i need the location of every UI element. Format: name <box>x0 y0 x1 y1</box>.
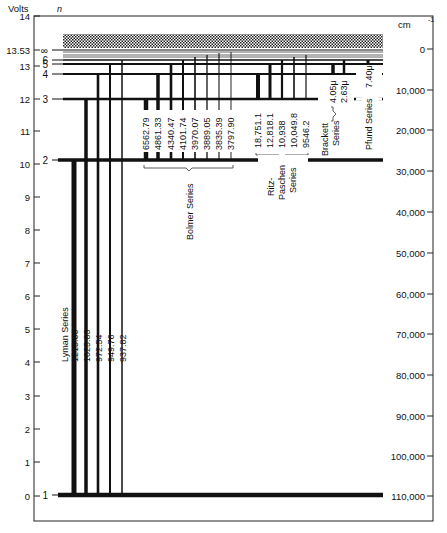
lyman-transitions <box>74 60 122 495</box>
left-axis-tick-label: 7 <box>25 258 30 269</box>
svg-text:4101.74: 4101.74 <box>178 117 188 150</box>
svg-text:Series: Series <box>288 167 298 193</box>
lyman-labels: Lyman Series 1215.66 1025.83 972.54 949.… <box>60 307 128 362</box>
right-axis-tick-label: 10,000 <box>396 85 425 96</box>
svg-text:2.63μ: 2.63μ <box>339 80 349 103</box>
right-axis-tick-label: 40,000 <box>396 207 425 218</box>
right-axis-tick-label: 60,000 <box>396 289 425 300</box>
svg-text:3970.07: 3970.07 <box>190 117 200 150</box>
left-axis-tick-label: 13 <box>19 61 30 72</box>
svg-text:3889.05: 3889.05 <box>202 117 212 150</box>
left-axis-tick-label: 5 <box>25 324 30 335</box>
ionization-continuum <box>63 34 383 48</box>
left-axis-tick-label: 1 <box>25 457 30 468</box>
right-axis-tick-label: 100,000 <box>391 451 425 462</box>
svg-text:Series: Series <box>331 120 341 146</box>
svg-text:6562.79: 6562.79 <box>141 117 151 150</box>
right-axis-tick-label: 70,000 <box>396 329 425 340</box>
svg-text:12,818.1: 12,818.1 <box>265 113 275 148</box>
svg-text:Ritz-: Ritz- <box>266 178 276 197</box>
brackett-labels: 4.05μ 2.63μ Brackett Series <box>318 76 354 158</box>
svg-text:972.54: 972.54 <box>94 334 104 362</box>
energy-level-n-label: 1 <box>42 490 48 501</box>
svg-text:3797.90: 3797.90 <box>226 117 236 150</box>
svg-text:Bolmer Series: Bolmer Series <box>185 183 195 240</box>
left-axis-tick-label: 0 <box>25 491 30 502</box>
svg-text:4340.47: 4340.47 <box>166 117 176 150</box>
svg-text:Pfund Series: Pfund Series <box>364 98 374 150</box>
svg-text:9546.2: 9546.2 <box>301 120 311 148</box>
right-axis-unit: cm <box>398 19 411 30</box>
left-axis-tick-label: 10 <box>19 159 30 170</box>
n-label: n <box>57 4 62 14</box>
left-axis-tick-label: 9 <box>25 192 30 203</box>
right-axis-ticks: 010,00020,00030,00040,00050,00060,00070,… <box>391 44 433 502</box>
svg-text:1215.66: 1215.66 <box>70 329 80 362</box>
svg-text:7.40μ: 7.40μ <box>364 65 374 88</box>
right-axis-tick-label: 20,000 <box>396 125 425 136</box>
svg-text:1025.83: 1025.83 <box>82 329 92 362</box>
left-axis-tick-label: 8 <box>25 225 30 236</box>
svg-text:10,938: 10,938 <box>277 120 287 148</box>
left-axis-tick-label: 12 <box>19 94 30 105</box>
brackett-transitions <box>333 60 344 74</box>
balmer-labels: 6562.79 4861.33 4340.47 4101.74 3970.07 … <box>136 110 238 240</box>
right-axis-tick-label: 80,000 <box>396 370 425 381</box>
svg-text:937.82: 937.82 <box>118 334 128 362</box>
svg-text:Lyman Series: Lyman Series <box>60 307 70 362</box>
pfund-labels: 7.40μ Pfund Series <box>362 65 378 154</box>
left-axis-tick-label: 14 <box>19 11 30 22</box>
right-axis-tick-label: 110,000 <box>391 491 425 502</box>
left-axis-tick-label: 13.53 <box>6 45 30 56</box>
left-axis-tick-label: 4 <box>25 357 30 368</box>
svg-text:949.76: 949.76 <box>106 334 116 362</box>
energy-level-n-label: 2 <box>42 155 48 166</box>
right-axis-unit-superscript: -1 <box>428 16 434 23</box>
energy-level-n-label: 4 <box>42 69 48 80</box>
right-axis-tick-label: 50,000 <box>396 248 425 259</box>
left-axis-tick-label: 11 <box>20 126 30 137</box>
left-axis-ticks: 1413.53131211109876543210 <box>6 11 40 502</box>
svg-text:Brackett: Brackett <box>320 122 330 156</box>
high-level-lines <box>63 52 383 57</box>
svg-text:3835.39: 3835.39 <box>214 117 224 150</box>
paschen-transitions <box>258 55 306 99</box>
svg-text:4861.33: 4861.33 <box>153 117 163 150</box>
left-axis-tick-label: 3 <box>25 391 30 402</box>
energy-level-n-label: 3 <box>42 94 48 105</box>
svg-text:4.05μ: 4.05μ <box>328 80 338 103</box>
right-axis-tick-label: 30,000 <box>396 166 425 177</box>
svg-text:18,751.1: 18,751.1 <box>253 113 263 148</box>
right-axis-tick-label: 90,000 <box>396 411 425 422</box>
svg-text:Paschen: Paschen <box>277 165 287 200</box>
hydrogen-energy-level-diagram: Volts 1413.53131211109876543210 cm -1 01… <box>0 0 447 533</box>
svg-text:10,049.8: 10,049.8 <box>289 113 299 148</box>
left-axis-tick-label: 2 <box>25 424 30 435</box>
paschen-labels: 18,751.1 12,818.1 10,938 10,049.8 9546.2… <box>250 101 314 200</box>
right-axis-tick-label: 0 <box>420 44 425 55</box>
left-axis-tick-label: 6 <box>25 291 30 302</box>
